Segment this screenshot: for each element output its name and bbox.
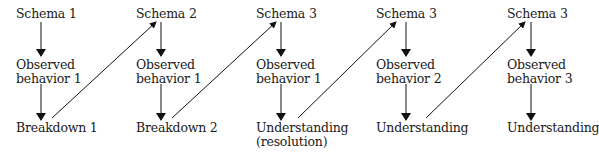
observed-1-line2: behavior 1 <box>16 72 81 86</box>
observed-5-line2: behavior 3 <box>507 72 572 86</box>
observed-4: Observed behavior 2 <box>376 58 441 86</box>
observed-4-line2: behavior 2 <box>376 72 441 86</box>
schema-5: Schema 3 <box>507 7 568 21</box>
outcome-2: Breakdown 2 <box>136 121 218 135</box>
schema-1: Schema 1 <box>16 7 77 21</box>
outcome-4: Understanding <box>376 121 468 135</box>
observed-1: Observed behavior 1 <box>16 58 81 86</box>
observed-5-line1: Observed <box>507 58 572 72</box>
observed-5: Observed behavior 3 <box>507 58 572 86</box>
observed-2-line1: Observed <box>136 58 201 72</box>
outcome-5: Understanding <box>507 121 599 135</box>
observed-3: Observed behavior 1 <box>256 58 321 86</box>
schema-3: Schema 3 <box>256 7 317 21</box>
observed-1-line1: Observed <box>16 58 81 72</box>
outcome-3: Understanding (resolution) <box>256 121 348 149</box>
schema-2: Schema 2 <box>136 7 197 21</box>
outcome-3-line1: Understanding <box>256 121 348 135</box>
observed-2-line2: behavior 1 <box>136 72 201 86</box>
observed-3-line2: behavior 1 <box>256 72 321 86</box>
observed-2: Observed behavior 1 <box>136 58 201 86</box>
observed-3-line1: Observed <box>256 58 321 72</box>
observed-4-line1: Observed <box>376 58 441 72</box>
outcome-3-line2: (resolution) <box>256 135 348 149</box>
schema-4: Schema 3 <box>376 7 437 21</box>
outcome-1: Breakdown 1 <box>16 121 98 135</box>
